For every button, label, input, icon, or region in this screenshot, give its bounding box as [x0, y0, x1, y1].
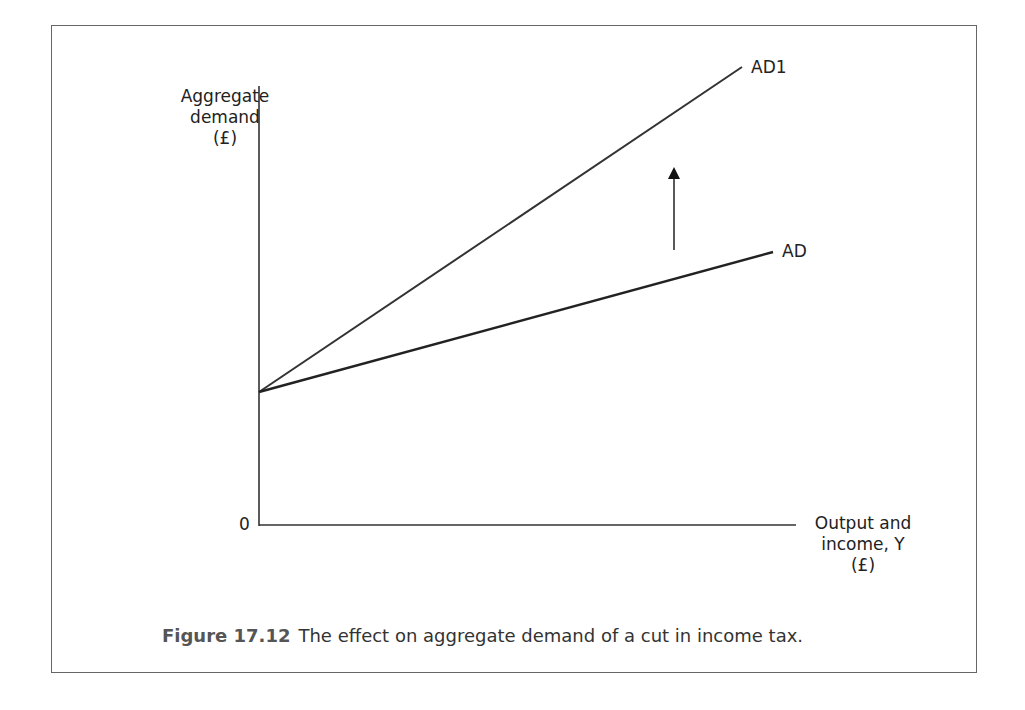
figure-caption: Figure 17.12The effect on aggregate dema… — [162, 625, 803, 646]
ad1-label: AD1 — [751, 57, 787, 78]
caption-text: The effect on aggregate demand of a cut … — [298, 625, 803, 646]
y-axis-label: Aggregate demand (£) — [165, 86, 285, 149]
x-axis-label-line1: Output and — [808, 513, 918, 534]
ad-line — [259, 252, 773, 392]
x-axis-label-line2: income, Y — [808, 534, 918, 555]
y-axis-label-line3: (£) — [165, 128, 285, 149]
y-axis-label-line1: Aggregate — [165, 86, 285, 107]
y-axis-label-line2: demand — [165, 107, 285, 128]
figure-number: Figure 17.12 — [162, 625, 290, 646]
ad1-line — [259, 67, 742, 392]
x-axis-label-line3: (£) — [808, 555, 918, 576]
x-axis-label: Output and income, Y (£) — [808, 513, 918, 576]
origin-label: 0 — [239, 514, 250, 535]
ad-label: AD — [782, 241, 807, 262]
chart-canvas — [0, 0, 1025, 710]
arrow-head-icon — [668, 167, 680, 179]
